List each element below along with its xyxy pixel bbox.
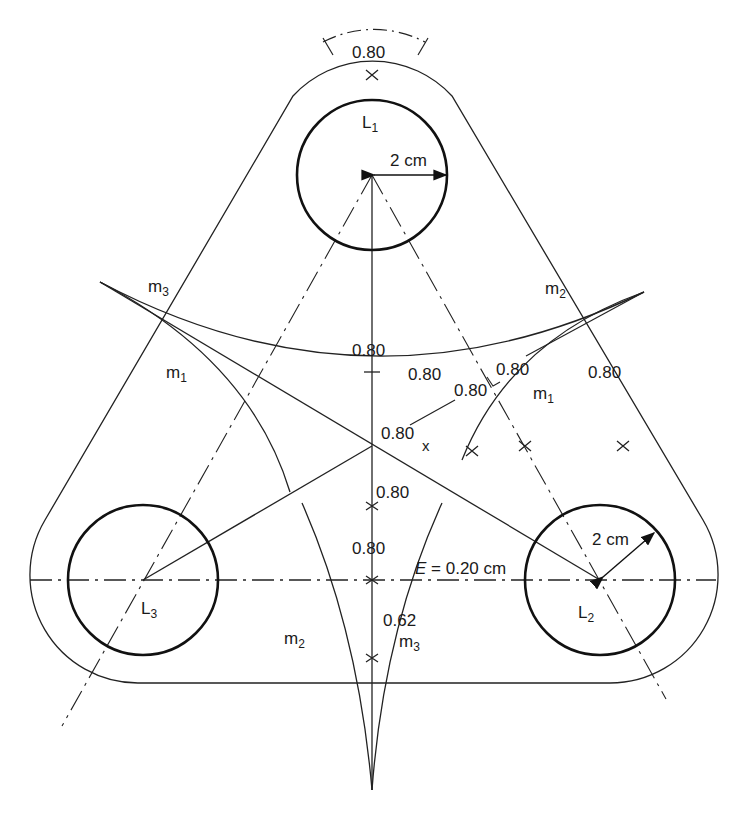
label-L2: L2 [578, 604, 594, 624]
dim-right-b: 0.80 [496, 361, 529, 378]
dim-below-centroid: 0.80 [376, 484, 409, 501]
label-m3-top-left: m3 [148, 278, 169, 298]
top-x-mark [366, 70, 378, 80]
radius-label-L1: 2 cm [390, 152, 427, 169]
axis-L1-L2 [372, 175, 666, 699]
label-L1: L1 [362, 114, 378, 134]
label-L3: L3 [141, 600, 157, 620]
label-m2-bottom: m2 [284, 630, 305, 650]
dim-right-a: 0.80 [408, 366, 441, 383]
label-m2-top-right: m2 [545, 280, 566, 300]
label-m3-bottom: m3 [399, 633, 420, 653]
dim-right-c: 0.80 [454, 382, 487, 399]
dim-mid-axis: 0.80 [352, 540, 385, 557]
eccentricity-label: E = 0.20 cm [415, 560, 506, 577]
dim-centroid: 0.80 [381, 425, 414, 442]
centroid-x-mark: x [422, 438, 430, 453]
label-m1-right: m1 [533, 385, 554, 405]
dim-right-outer: 0.80 [588, 364, 621, 381]
dim-bottom: 0.62 [383, 612, 416, 629]
diagram-canvas: 0.80 L1 2 cm m3 m1 m2 m1 0.80 0.80 0.80 … [0, 0, 734, 830]
radius-label-L2: 2 cm [592, 531, 629, 548]
top-dashdot-arc [323, 29, 425, 42]
dim-top: 0.80 [352, 44, 385, 61]
curve-m1-left [100, 282, 290, 492]
median-L2 [100, 282, 600, 580]
label-m1-left: m1 [166, 364, 187, 384]
dim-arc-center: 0.80 [352, 342, 385, 359]
axis-L1-L3 [62, 175, 372, 726]
